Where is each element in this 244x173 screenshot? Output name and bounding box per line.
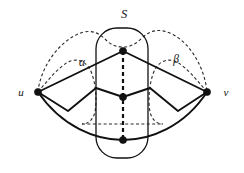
figure-container: u v S α β [0,0,244,173]
label-vertex-u: u [18,86,24,98]
edge-smiddle-right [123,88,150,97]
vertex-s-bottom [119,136,126,143]
label-region-beta: β [172,53,179,66]
edge-stop-v [123,51,207,92]
vertex-v [203,88,210,95]
vertex-s-middle [119,93,126,100]
label-vertex-v: v [224,86,229,98]
vertex-s-top [119,47,126,54]
graph-diagram-svg: u v S α β [0,0,244,173]
dashed-region-beta [149,60,207,124]
edge-left-smiddle [96,88,123,97]
label-separator-S: S [121,7,128,21]
edge-u-zigzag-left [38,88,96,111]
edge-v-zigzag-right [150,88,207,111]
vertex-u [34,88,41,95]
dashed-region-alpha [38,60,96,124]
label-region-alpha: α [79,56,86,68]
